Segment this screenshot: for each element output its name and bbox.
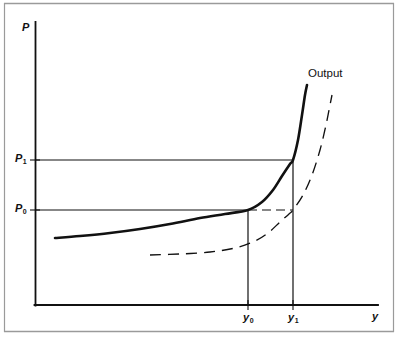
y-tick-label-p1-sub: 1 [23, 158, 27, 165]
x-tick-label-y1-sub: 1 [295, 317, 299, 324]
x-tick-label-y0-base: y [243, 311, 249, 323]
x-tick-label-y0: y0 [243, 312, 253, 323]
x-tick-label-y0-sub: 0 [250, 317, 254, 324]
y-tick-label-p1: P1 [15, 153, 26, 164]
y-tick-label-p0-sub: 0 [23, 208, 27, 215]
output-curve [55, 85, 307, 238]
figure-container: P y P1 P0 y0 y1 Output [0, 0, 398, 338]
y-tick-label-p0-base: P [15, 202, 22, 214]
x-tick-label-y1: y1 [288, 312, 298, 323]
shifted-output-curve [150, 95, 332, 255]
y-axis-label: P [22, 22, 29, 33]
x-axis-label: y [372, 311, 378, 322]
y-tick-label-p0: P0 [15, 203, 26, 214]
x-tick-label-y1-base: y [288, 311, 294, 323]
output-curve-label: Output [308, 68, 343, 80]
y-tick-label-p1-base: P [15, 152, 22, 164]
chart-canvas [0, 0, 398, 338]
